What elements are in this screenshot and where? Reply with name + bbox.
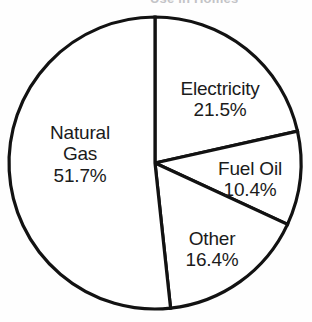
slice-label-name-natural-gas-line2: Gas bbox=[24, 143, 136, 164]
slice-label-value-other: 16.4% bbox=[166, 249, 258, 270]
slice-label-name-electricity: Electricity bbox=[160, 78, 280, 99]
pie-slice-label-electricity: Electricity 21.5% bbox=[160, 78, 280, 121]
pie-slice-label-fuel-oil: Fuel Oil 10.4% bbox=[196, 158, 304, 201]
pie-slice-label-natural-gas: Natural Gas 51.7% bbox=[24, 122, 136, 186]
slice-label-name-fuel-oil: Fuel Oil bbox=[196, 158, 304, 179]
slice-label-value-natural-gas: 51.7% bbox=[24, 165, 136, 186]
slice-label-value-electricity: 21.5% bbox=[160, 99, 280, 120]
slice-label-name-other: Other bbox=[166, 228, 258, 249]
pie-chart-figure: Use in Homes Natural Gas 51.7% Electrici… bbox=[0, 0, 312, 322]
slice-label-value-fuel-oil: 10.4% bbox=[196, 179, 304, 200]
slice-label-name-natural-gas-line1: Natural bbox=[24, 122, 136, 143]
pie-slice-label-other: Other 16.4% bbox=[166, 228, 258, 271]
